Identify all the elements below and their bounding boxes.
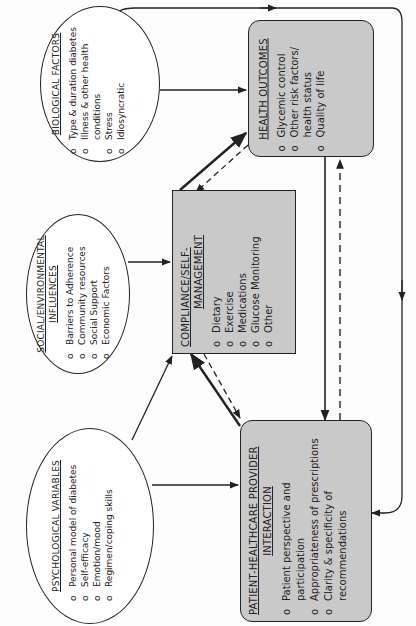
social-environmental-list: Barriers to Adherence Community resource…	[64, 229, 112, 359]
social-environmental-title-line2: INFLUENCES	[47, 229, 59, 359]
list-item: Medications	[236, 197, 249, 347]
list-item: Idiosyncratic	[115, 14, 127, 154]
diabetes-management-diagram: BIOLOGICAL FACTORS Type & duration diabe…	[0, 0, 416, 626]
patient-provider-interaction-node: PATIENT-HEALTHCARE PROVIDER INTERACTION …	[240, 420, 372, 622]
psychological-variables-list: Personal model of diabetes Self-efficacy…	[67, 451, 115, 601]
list-item: Clarity & specificity of recommendations	[322, 427, 350, 615]
compliance-self-management-node: COMPLIANCE/SELF- MANAGEMENT Dietary Exer…	[172, 190, 296, 354]
list-item: Patient perspective and participation	[280, 427, 308, 615]
list-item: Other	[262, 197, 275, 347]
psychological-variables-title: PSYCHOLOGICAL VARIABLES	[50, 451, 62, 601]
list-item: Economic Factors	[100, 229, 112, 359]
list-item: Type & duration diabetes	[67, 14, 79, 154]
social-environmental-title-line1: SOCIAL/ENVIRONMENTAL	[35, 229, 47, 359]
list-item: Illness & other health conditions	[79, 14, 103, 154]
compliance-list: Dietary Exercise Medications Glucose Mon…	[210, 197, 275, 347]
list-item: Stress	[103, 14, 115, 154]
biological-factors-list: Type & duration diabetes Illness & other…	[67, 14, 127, 154]
list-item: Glucose Monitoring	[249, 197, 262, 347]
patient-provider-title-line2: INTERACTION	[261, 427, 275, 615]
biological-factors-node: BIOLOGICAL FACTORS Type & duration diabe…	[40, 6, 160, 162]
compliance-title-line1: COMPLIANCE/SELF-	[179, 197, 192, 347]
patient-provider-title-line1: PATIENT-HEALTHCARE PROVIDER	[247, 427, 261, 615]
biological-factors-title: BIOLOGICAL FACTORS	[50, 14, 62, 154]
list-item: Appropriateness of prescriptions	[308, 427, 322, 615]
list-item: Quality of life	[314, 26, 327, 151]
list-item: Social Support	[88, 229, 100, 359]
social-environmental-node: SOCIAL/ENVIRONMENTAL INFLUENCES Barriers…	[26, 214, 130, 374]
list-item: Barriers to Adherence	[64, 229, 76, 359]
list-item: Emotion/mood	[91, 451, 103, 601]
psychological-variables-node: PSYCHOLOGICAL VARIABLES Personal model o…	[26, 428, 154, 624]
list-item: Regimen/coping skills	[103, 451, 115, 601]
health-outcomes-node: HEALTH OUTCOMES Glycemic control Other r…	[248, 20, 374, 157]
list-item: Exercise	[223, 197, 236, 347]
list-item: Personal model of diabetes	[67, 451, 79, 601]
list-item: Dietary	[210, 197, 223, 347]
list-item: Glycemic control	[275, 26, 288, 151]
list-item: Community resources	[76, 229, 88, 359]
health-outcomes-list: Glycemic control Other risk factors/ hea…	[275, 26, 327, 151]
list-item: Self-efficacy	[79, 451, 91, 601]
list-item: Other risk factors/ health status	[288, 26, 314, 151]
compliance-title-line2: MANAGEMENT	[192, 197, 205, 347]
health-outcomes-title: HEALTH OUTCOMES	[257, 26, 270, 151]
patient-provider-list: Patient perspective and participation Ap…	[280, 427, 350, 615]
